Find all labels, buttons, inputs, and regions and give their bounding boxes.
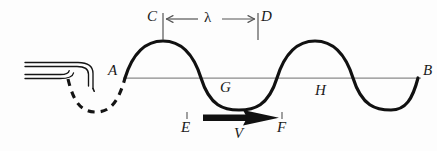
label-lambda: λ	[204, 10, 211, 25]
label-e: E	[181, 120, 190, 135]
label-f: F	[277, 120, 286, 135]
label-a: A	[108, 63, 117, 78]
wave-diagram-canvas	[0, 0, 437, 151]
label-b: B	[423, 63, 432, 78]
label-h: H	[315, 83, 326, 98]
tuning-fork-icon	[25, 63, 94, 92]
velocity-arrow-icon	[203, 110, 279, 126]
wave-solid-curve	[125, 41, 418, 110]
label-v: V	[234, 126, 243, 141]
wave-dashed-segment	[68, 78, 125, 112]
wave-solid-curve-aligned	[125, 41, 418, 109]
label-d: D	[261, 9, 272, 24]
velocity-arrow-shaft	[203, 115, 248, 122]
wave-diagram: A B C D λ E F G H V	[0, 0, 437, 151]
label-g: G	[220, 80, 231, 95]
velocity-arrow-head	[243, 110, 279, 126]
label-c: C	[147, 9, 157, 24]
